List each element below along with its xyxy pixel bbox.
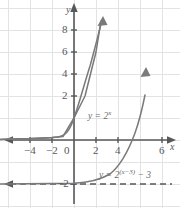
curve1-arrowhead — [98, 16, 108, 26]
curve-exponential-translated — [0, 67, 151, 184]
x-tick-4: 4 — [115, 145, 121, 156]
graph-figure: y x 8 6 4 2 −2 −4 −2 0 2 4 6 y = 2x y = … — [0, 0, 180, 208]
curve2-equation-exponent: (x−3) — [119, 168, 135, 176]
y-axis — [70, 3, 77, 204]
y-tick-neg2: −2 — [57, 178, 69, 189]
x-axis-label: x — [170, 142, 174, 152]
curve1-equation-base: y = 2 — [88, 111, 108, 121]
grid-lines — [0, 0, 180, 208]
x-tick-0: 0 — [64, 145, 70, 156]
curve1-equation-exponent: x — [108, 109, 111, 117]
x-tick-neg4: −4 — [24, 145, 36, 156]
x-tick-6: 6 — [159, 145, 165, 156]
curve2-equation-base: y = 2 — [99, 170, 119, 180]
curve1-equation-label: y = 2x — [88, 112, 111, 122]
curve2-arrowhead — [141, 67, 151, 77]
y-tick-4: 4 — [62, 68, 68, 79]
coordinate-plane — [0, 0, 180, 208]
y-axis-label: y — [66, 5, 70, 15]
y-tick-8: 8 — [62, 24, 68, 35]
x-tick-neg2: −2 — [46, 145, 58, 156]
curve2-equation-label: y = 2(x−3) − 3 — [99, 171, 151, 181]
y-tick-2: 2 — [62, 90, 68, 101]
curve2-equation-tail: − 3 — [135, 170, 151, 180]
y-tick-6: 6 — [62, 46, 68, 57]
x-tick-2: 2 — [93, 145, 99, 156]
